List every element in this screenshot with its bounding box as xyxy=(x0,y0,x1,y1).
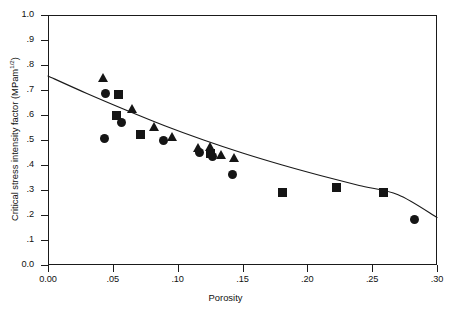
x-axis-tick xyxy=(113,265,114,272)
data-point-square xyxy=(278,188,287,197)
y-axis-title: Critical stress intensity factor (MPam1/… xyxy=(8,14,24,264)
x-axis-tick-label: 0.00 xyxy=(25,275,71,284)
x-axis-tick xyxy=(372,265,373,272)
y-axis-tick xyxy=(41,15,48,16)
data-point-triangle xyxy=(98,73,108,82)
data-point-triangle xyxy=(193,143,203,152)
x-axis-tick-label: .30 xyxy=(414,275,451,284)
x-axis-tick-label: .25 xyxy=(349,275,395,284)
y-axis-tick xyxy=(41,40,48,41)
data-point-triangle xyxy=(205,142,215,151)
x-axis-tick xyxy=(437,265,438,272)
x-axis-tick-label: .20 xyxy=(284,275,330,284)
y-axis-tick xyxy=(41,265,48,266)
data-point-square xyxy=(112,111,121,120)
x-axis-tick-label: .15 xyxy=(220,275,266,284)
data-point-square xyxy=(332,183,341,192)
y-axis-title-main: Critical stress intensity factor (MPam xyxy=(9,69,20,221)
x-axis-tick xyxy=(48,265,49,272)
x-axis-tick xyxy=(178,265,179,272)
y-axis-tick xyxy=(41,115,48,116)
chart-figure: 0.0.1.2.3.4.5.6.7.8.91.0 0.00.05.10.15.2… xyxy=(0,0,451,311)
y-axis-tick xyxy=(41,240,48,241)
data-point-triangle xyxy=(229,153,239,162)
x-axis-tick-label: .10 xyxy=(155,275,201,284)
data-point-triangle xyxy=(149,122,159,131)
x-axis-tick xyxy=(243,265,244,272)
data-point-circle xyxy=(101,89,110,98)
y-axis-tick xyxy=(41,65,48,66)
x-axis-tick-label: .05 xyxy=(90,275,136,284)
x-axis-tick xyxy=(307,265,308,272)
y-axis-tick xyxy=(41,165,48,166)
data-point-triangle xyxy=(127,104,137,113)
data-point-triangle xyxy=(167,132,177,141)
data-point-circle xyxy=(410,215,419,224)
data-point-square xyxy=(379,188,388,197)
y-axis-title-superscript: 1/2 xyxy=(8,60,15,69)
data-point-triangle xyxy=(216,150,226,159)
x-axis-title: Porosity xyxy=(0,292,451,303)
data-point-square xyxy=(114,90,123,99)
y-axis-tick xyxy=(41,140,48,141)
y-axis-tick xyxy=(41,190,48,191)
y-axis-tick xyxy=(41,215,48,216)
data-point-square xyxy=(136,130,145,139)
y-axis-tick xyxy=(41,90,48,91)
data-point-circle xyxy=(100,134,109,143)
y-axis-title-close: ) xyxy=(9,57,20,60)
